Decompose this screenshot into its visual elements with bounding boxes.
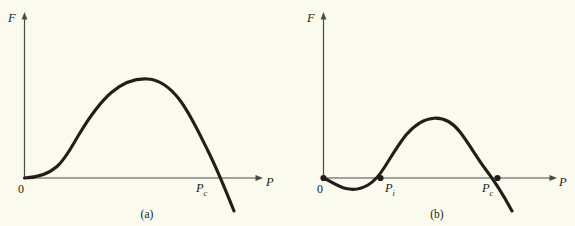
panel-a-caption: (a) [141,208,154,221]
panel-b-root-dot-pi [377,175,383,181]
panel-b-origin-label: 0 [317,182,323,196]
figure-container: 0 F P P c (a) [0,0,575,226]
panel-a-y-axis-arrowhead [22,12,28,20]
panel-b-curve [324,118,513,211]
panel-a: 0 F P P c (a) [7,11,274,221]
panel-a-y-axis-label: F [7,11,16,25]
panel-b-caption: (b) [430,208,444,221]
panel-b-tick-label-pi-sub: i [393,188,396,198]
panel-b-x-axis-label: P [558,175,567,189]
panel-a-tick-label-pc: P c [195,181,208,198]
panel-b-tick-label-pc-sub: c [490,188,494,198]
panel-b-root-dot-origin [320,175,326,181]
panel-b-tick-label-pi: P i [384,181,396,198]
panel-b-y-axis-arrowhead [321,12,327,20]
panel-b: 0 F P P i P c (b) [306,11,567,221]
panel-b-tick-label-pc: P c [481,181,494,198]
panel-a-x-axis-arrowhead [256,175,264,181]
panel-a-x-axis-label: P [265,175,274,189]
figure-svg: 0 F P P c (a) [0,0,575,226]
panel-a-origin-label: 0 [18,182,24,196]
panel-b-root-dot-pc [494,175,500,181]
panel-a-tick-label-pc-sub: c [204,188,208,198]
panel-b-y-axis-label: F [306,11,315,25]
panel-b-x-axis-arrowhead [550,175,558,181]
